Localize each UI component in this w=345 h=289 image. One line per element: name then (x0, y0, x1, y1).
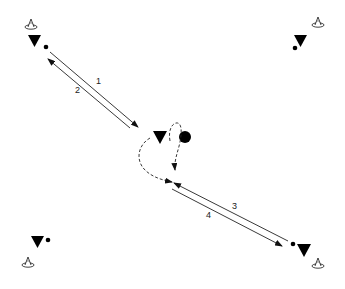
player-top-right-icon (294, 35, 307, 47)
pass-1-arrow (50, 52, 138, 127)
pass-4-label: 4 (206, 210, 211, 220)
player-center-icon (153, 131, 167, 144)
cone-icon-top-left (25, 19, 37, 29)
diagram-svg: 1 2 3 4 (0, 0, 345, 289)
player-run-dashed-arrow (139, 138, 172, 182)
pass-1-label: 1 (96, 76, 101, 86)
pass-2-arrow (48, 59, 130, 128)
cone-icon-bottom-left (22, 257, 34, 267)
ball-dribble-dashed-arrow (169, 123, 181, 170)
drill-diagram: 1 2 3 4 (0, 0, 345, 289)
player-bottom-left-icon (31, 236, 44, 248)
ball-bottom-left-icon (46, 238, 51, 243)
player-top-left-icon (28, 35, 41, 47)
cone-icon-top-right (312, 17, 324, 27)
pass-2-label: 2 (75, 85, 80, 95)
pass-4-arrow (172, 189, 282, 246)
ball-bottom-right-icon (291, 242, 296, 247)
pass-3-arrow (174, 183, 288, 241)
ball-top-left-icon (44, 45, 49, 50)
player-bottom-right-icon (297, 244, 311, 257)
cone-icon-bottom-right (312, 258, 324, 268)
pass-3-label: 3 (232, 201, 237, 211)
ball-top-right-icon (293, 46, 298, 51)
